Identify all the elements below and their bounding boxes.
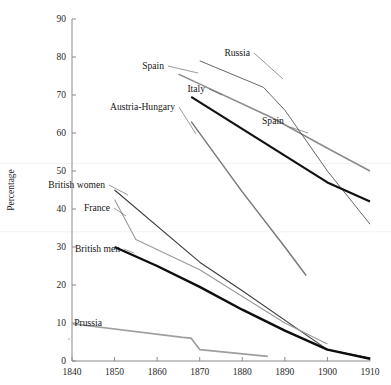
chart-container: 0102030405060708090 18401850186018701880… xyxy=(0,0,391,385)
x-tick-label: 1870 xyxy=(190,367,209,377)
series-line-france xyxy=(115,200,328,344)
y-axis-title: Percentage xyxy=(6,169,16,211)
series-label-prussia: Prussia xyxy=(74,317,102,328)
series-label-spain: Spain xyxy=(142,60,164,71)
axes xyxy=(72,19,370,361)
x-tick-label: 1910 xyxy=(361,367,380,377)
series-label-british-women: British women xyxy=(48,179,105,190)
y-tick-label: 30 xyxy=(57,242,67,252)
x-tick-label: 1900 xyxy=(318,367,337,377)
y-tick-label: 0 xyxy=(61,356,66,366)
x-tick-label: 1880 xyxy=(233,367,252,377)
y-axis-ticks: 0102030405060708090 xyxy=(57,14,77,366)
series-line-prussia xyxy=(72,324,268,357)
x-tick-label: 1850 xyxy=(105,367,124,377)
series-line-italy xyxy=(191,97,370,201)
series-line-british-men xyxy=(115,247,370,359)
series-label-british-men: British men xyxy=(75,243,120,254)
y-tick-label: 70 xyxy=(57,90,67,100)
leader-line-russia xyxy=(254,53,283,79)
leader-line-italy xyxy=(209,89,222,95)
y-tick-label: 20 xyxy=(57,280,67,290)
series-label-france: France xyxy=(84,202,110,213)
series-label-italy: Italy xyxy=(187,83,205,94)
series-label-russia: Russia xyxy=(224,47,250,58)
x-axis-ticks: 18401850186018701880189019001910 xyxy=(63,357,380,377)
leader-line-spain xyxy=(168,66,198,73)
line-chart: 0102030405060708090 18401850186018701880… xyxy=(0,0,391,385)
series-line-austria-hungary xyxy=(191,122,306,276)
series-label-spain-right: Spain xyxy=(262,115,284,126)
y-tick-label: 90 xyxy=(57,14,67,24)
y-tick-label: 40 xyxy=(57,204,67,214)
series-annotations: SpainRussiaItalyAustria-HungarySpainBrit… xyxy=(48,47,284,328)
y-tick-label: 10 xyxy=(57,318,67,328)
y-tick-label: 50 xyxy=(57,166,67,176)
x-tick-label: 1840 xyxy=(63,367,82,377)
series-line-british-women xyxy=(115,190,370,358)
y-tick-label: 60 xyxy=(57,128,67,138)
series-label-austria-hungary: Austria-Hungary xyxy=(110,101,175,112)
x-tick-label: 1860 xyxy=(148,367,167,377)
leader-line-austria-hungary xyxy=(179,107,196,134)
annotation-leader-lines xyxy=(109,53,308,253)
y-axis-title-group: Percentage xyxy=(6,169,16,211)
paper-speck-icon xyxy=(68,338,70,340)
series-line-russia xyxy=(200,61,370,224)
y-tick-label: 80 xyxy=(57,52,67,62)
x-tick-label: 1890 xyxy=(275,367,294,377)
